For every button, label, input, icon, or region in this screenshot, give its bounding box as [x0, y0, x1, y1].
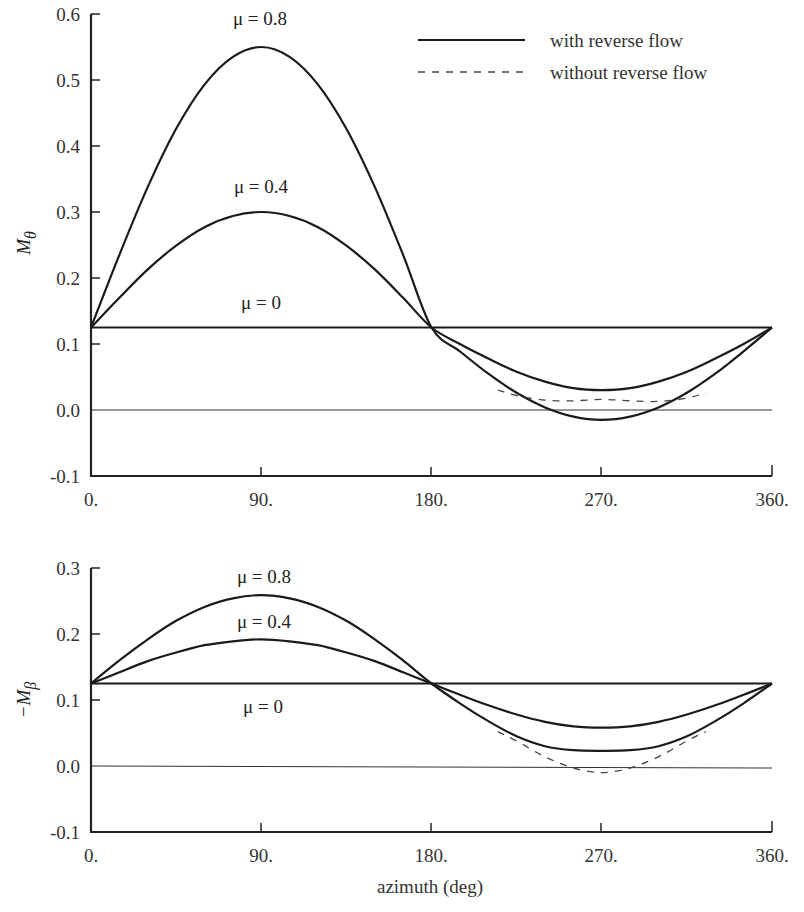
svg-text:Mθ: Mθ — [13, 231, 39, 256]
bottom-curve-mu08-no-reverse-flow — [498, 732, 706, 773]
y-axis-label-subscript: β — [22, 682, 40, 691]
x-tick-label: 180. — [414, 489, 447, 510]
curve-label-mu04: μ = 0.4 — [234, 176, 289, 197]
svg-text:−Mβ: −Mβ — [13, 682, 40, 719]
y-tick-label: -0.1 — [50, 466, 80, 487]
x-tick-label: 180. — [414, 845, 447, 866]
y-tick-label: 0.4 — [56, 136, 80, 157]
legend: with reverse flow without reverse flow — [418, 30, 708, 83]
x-tick-label: 270. — [584, 489, 617, 510]
y-tick-label: -0.1 — [50, 822, 80, 843]
bottom-x-tick-labels: 0. 90. 180. 270. 360. — [84, 845, 789, 866]
y-tick-label: 0.2 — [56, 268, 80, 289]
x-tick-label: 270. — [584, 845, 617, 866]
bottom-y-axis-label: −Mβ — [13, 682, 40, 719]
y-tick-label: 0.1 — [56, 334, 80, 355]
y-tick-label: 0.2 — [56, 624, 80, 645]
x-tick-label: 360. — [755, 489, 788, 510]
top-y-axis — [91, 14, 772, 476]
y-axis-label-subscript: θ — [22, 231, 39, 239]
y-tick-label: 0.5 — [56, 70, 80, 91]
y-tick-label: 0.3 — [56, 558, 80, 579]
y-tick-label: 0.6 — [56, 4, 80, 25]
bottom-curve-mu08 — [91, 595, 772, 751]
top-curve-mu04 — [91, 212, 772, 390]
curve-label-mu08: μ = 0.8 — [233, 8, 287, 29]
x-tick-label: 360. — [755, 845, 788, 866]
legend-solid-label: with reverse flow — [550, 30, 683, 51]
top-x-tick-labels: 0. 90. 180. 270. 360. — [84, 489, 789, 510]
top-x-ticks — [261, 465, 772, 476]
top-panel: 0.6 0.5 0.4 0.3 0.2 0.1 0.0 -0.1 0. 90. … — [13, 4, 789, 510]
y-axis-label-main: −M — [13, 688, 34, 718]
y-axis-label-main: M — [13, 238, 34, 256]
legend-dashed-label: without reverse flow — [550, 62, 708, 83]
y-tick-label: 0.3 — [56, 202, 80, 223]
top-y-tick-labels: 0.6 0.5 0.4 0.3 0.2 0.1 0.0 -0.1 — [50, 4, 81, 487]
x-axis-label: azimuth (deg) — [377, 876, 483, 898]
bottom-y-tick-labels: 0.3 0.2 0.1 0.0 -0.1 — [50, 558, 80, 843]
x-tick-label: 90. — [249, 845, 273, 866]
top-y-axis-label: Mθ — [13, 231, 39, 256]
x-tick-label: 0. — [84, 845, 98, 866]
top-y-ticks — [91, 14, 100, 344]
curve-label-mu0: μ = 0 — [241, 292, 281, 313]
curve-label-mu08: μ = 0.8 — [237, 566, 291, 587]
x-tick-label: 0. — [84, 489, 98, 510]
bottom-zero-line — [91, 766, 772, 768]
bottom-y-axis — [91, 568, 772, 832]
curve-label-mu0: μ = 0 — [243, 696, 283, 717]
y-tick-label: 0.0 — [56, 756, 80, 777]
curve-label-mu04: μ = 0.4 — [237, 611, 292, 632]
x-tick-label: 90. — [249, 489, 273, 510]
bottom-x-ticks — [261, 821, 772, 832]
bottom-panel: 0.3 0.2 0.1 0.0 -0.1 0. 90. 180. 270. 36… — [13, 558, 789, 898]
y-tick-label: 0.0 — [56, 400, 80, 421]
figure: 0.6 0.5 0.4 0.3 0.2 0.1 0.0 -0.1 0. 90. … — [0, 0, 804, 912]
y-tick-label: 0.1 — [56, 690, 80, 711]
